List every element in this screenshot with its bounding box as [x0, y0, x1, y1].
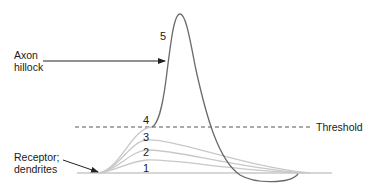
graded-potential-2 [100, 150, 305, 173]
receptor-dendrites-label: Receptor; dendrites [14, 151, 60, 175]
axon-hillock-label-line2: hillock [14, 61, 43, 73]
axon-hillock-label-line1: Axon [14, 49, 43, 61]
curve-label-4: 4 [143, 114, 149, 126]
receptor-arrow [63, 160, 98, 172]
axon-hillock-label: Axon hillock [14, 49, 43, 73]
receptor-label-line2: dendrites [14, 163, 60, 175]
threshold-label: Threshold [316, 121, 363, 133]
curve-label-2: 2 [143, 146, 149, 158]
graded-potential-3 [100, 140, 310, 173]
curve-label-1: 1 [143, 162, 149, 174]
curve-label-5: 5 [160, 30, 166, 42]
receptor-label-line1: Receptor; [14, 151, 60, 163]
curve-label-3: 3 [143, 131, 149, 143]
